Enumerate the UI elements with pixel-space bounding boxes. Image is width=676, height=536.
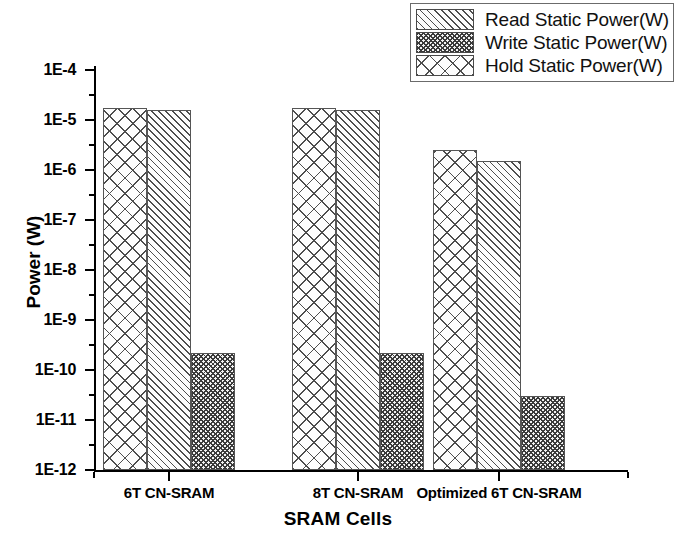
x-tick-end — [93, 472, 95, 478]
plot-area: 1E-41E-51E-61E-71E-81E-91E-101E-111E-12 … — [0, 0, 676, 536]
y-tick-minor — [89, 194, 94, 196]
y-tick-label: 1E-4 — [8, 62, 76, 78]
bar — [433, 150, 477, 470]
y-tick-major — [85, 269, 94, 271]
y-tick-minor — [89, 344, 94, 346]
y-tick-major — [85, 469, 94, 471]
bar — [521, 396, 565, 470]
y-tick-label: 1E-11 — [8, 412, 76, 428]
y-tick-label: 1E-12 — [8, 462, 76, 478]
bar — [292, 108, 336, 470]
bar — [477, 161, 521, 470]
y-tick-label: 1E-10 — [8, 362, 76, 378]
bar — [103, 108, 147, 470]
chart-figure: Read Static Power(W) Write Static Power(… — [0, 0, 676, 536]
y-tick-major — [85, 219, 94, 221]
y-tick-minor — [89, 294, 94, 296]
y-tick-minor — [89, 394, 94, 396]
y-tick-major — [85, 69, 94, 71]
y-tick-minor — [89, 444, 94, 446]
x-axis-line — [94, 470, 628, 472]
y-tick-label: 1E-6 — [8, 162, 76, 178]
bar — [380, 353, 424, 470]
bar — [147, 110, 191, 470]
y-tick-label: 1E-5 — [8, 112, 76, 128]
bar — [336, 110, 380, 470]
x-tick-end — [627, 472, 629, 478]
y-tick-minor — [89, 144, 94, 146]
x-tick — [357, 472, 359, 481]
y-tick-minor — [89, 94, 94, 96]
x-tick-label: Optimized 6T CN-SRAM — [389, 484, 609, 501]
y-axis-title: Power (W) — [23, 182, 45, 342]
bar — [191, 353, 235, 470]
x-tick — [498, 472, 500, 481]
y-tick-major — [85, 369, 94, 371]
x-tick-label: 6T CN-SRAM — [59, 484, 279, 501]
y-tick-major — [85, 319, 94, 321]
y-tick-major — [85, 419, 94, 421]
y-axis-line — [94, 66, 96, 472]
x-axis-title: SRAM Cells — [0, 508, 676, 530]
y-tick-major — [85, 169, 94, 171]
y-tick-major — [85, 119, 94, 121]
x-tick — [168, 472, 170, 481]
y-tick-minor — [89, 244, 94, 246]
